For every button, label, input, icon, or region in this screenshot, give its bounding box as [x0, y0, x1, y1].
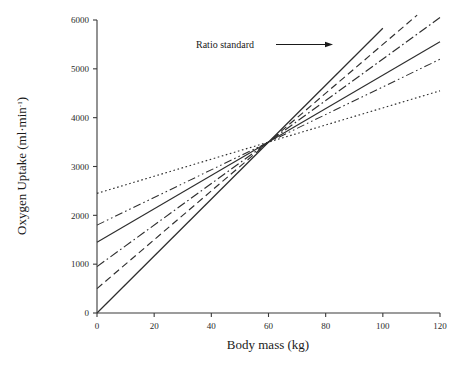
chart-background	[0, 0, 456, 374]
y-tick-label-5000: 5000	[71, 64, 90, 74]
x-tick-label-80: 80	[321, 321, 331, 331]
x-tick-label-120: 120	[433, 321, 447, 331]
x-tick-label-60: 60	[264, 321, 274, 331]
y-axis-title-close: )	[14, 97, 29, 101]
y-tick-label-0: 0	[85, 308, 90, 318]
y-tick-label-4000: 4000	[71, 113, 90, 123]
x-tick-label-100: 100	[376, 321, 390, 331]
annotation-label: Ratio standard	[196, 39, 254, 50]
x-axis-title: Body mass (kg)	[227, 337, 309, 352]
x-tick-label-40: 40	[207, 321, 217, 331]
y-tick-label-1000: 1000	[71, 259, 90, 269]
x-tick-label-0: 0	[95, 321, 100, 331]
y-axis-title-base: Oxygen Uptake (ml·min	[14, 107, 29, 235]
y-tick-label-3000: 3000	[71, 162, 90, 172]
y-axis-title: Oxygen Uptake (ml·min-1)	[14, 97, 29, 235]
x-tick-label-20: 20	[150, 321, 160, 331]
y-tick-label-6000: 6000	[71, 15, 90, 25]
oxygen-uptake-chart: 0100020003000400050006000 02040608010012…	[0, 0, 456, 374]
y-tick-label-2000: 2000	[71, 211, 90, 221]
